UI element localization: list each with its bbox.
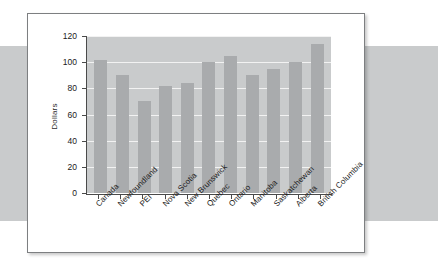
bar [267,69,280,193]
y-axis-tick-label: 0 [37,188,77,198]
y-axis-tick-label: 120 [37,31,77,41]
y-axis-tick [82,62,87,63]
y-axis-tick-label: 60 [37,110,77,120]
y-axis-tick [82,115,87,116]
bar [94,60,107,193]
y-axis-tick-label: 40 [37,136,77,146]
bar [159,86,172,193]
y-axis-tick [82,88,87,89]
y-axis-tick-label: 100 [37,57,77,67]
y-axis-tick [82,167,87,168]
bar-series [87,36,331,193]
chart-card: Dollars 020406080100120 CanadaNewfoundla… [27,13,365,253]
y-axis-tick-label: 20 [37,162,77,172]
y-axis-tick-label: 80 [37,83,77,93]
plot-area [87,36,331,193]
background-band-right [364,46,438,221]
bar [246,75,259,193]
x-axis-category-label: PEI [138,193,154,209]
bar [224,56,237,193]
bar-chart-figure: Dollars 020406080100120 CanadaNewfoundla… [28,14,364,252]
bar [116,75,129,193]
y-axis-tick [82,36,87,37]
y-axis-tick [82,141,87,142]
